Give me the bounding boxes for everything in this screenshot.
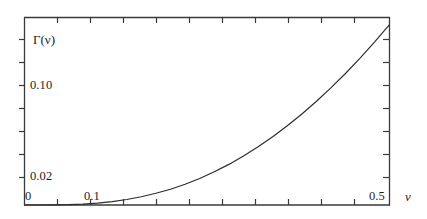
x-axis-ticks-bottom: [58, 199, 355, 205]
y-axis-title: Γ(ν): [33, 33, 55, 46]
x-tick-label-0.1: 0.1: [84, 190, 100, 203]
chart-figure: Γ(ν) 0.10 0.02 0 0.1 0.5 ν: [0, 0, 427, 219]
x-axis-title-text: ν: [405, 189, 411, 204]
y-tick-label-0.02: 0.02: [30, 170, 52, 183]
plot-frame: [24, 17, 390, 206]
y-axis-title-text: Γ(ν): [33, 32, 55, 47]
plot-canvas: [0, 0, 427, 219]
y-axis-ticks-right: [383, 40, 389, 178]
y-tick-label-0.10: 0.10: [30, 79, 52, 92]
x-tick-label-0.5: 0.5: [369, 190, 385, 203]
data-curve-gamma: [25, 25, 390, 205]
x-axis-title: ν: [405, 190, 411, 203]
x-tick-label-0: 0: [25, 190, 31, 203]
